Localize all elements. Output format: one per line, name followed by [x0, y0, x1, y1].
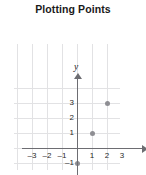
y-tick-label: –2: [60, 173, 74, 175]
up-arrow-icon: [74, 73, 82, 79]
gridline-horizontal: [14, 88, 120, 89]
y-tick-label: 2: [60, 113, 74, 122]
plot-area: –3–2–1123321–1–2 x y: [14, 44, 120, 170]
x-tick-label: 1: [85, 151, 99, 160]
gridline-vertical: [17, 44, 18, 170]
y-axis-line: [77, 77, 78, 175]
data-point: [90, 131, 95, 136]
x-tick-label: –3: [25, 151, 39, 160]
page-title: Plotting Points: [0, 3, 146, 15]
x-tick-label: –2: [40, 151, 54, 160]
right-arrow-icon: [142, 145, 146, 153]
y-tick-label: 1: [60, 128, 74, 137]
y-tick-label: –1: [60, 158, 74, 167]
x-tick-label: 3: [115, 151, 129, 160]
y-axis-label: y: [74, 62, 78, 72]
coordinate-plane-figure: Plotting Points –3–2–1123321–1–2 x y: [0, 0, 146, 175]
x-tick-label: 2: [100, 151, 114, 160]
x-axis-line: [22, 148, 144, 149]
data-point: [105, 101, 110, 106]
y-tick-label: 3: [60, 98, 74, 107]
